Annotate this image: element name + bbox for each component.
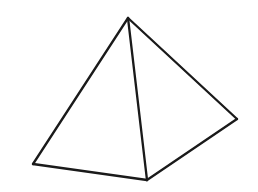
pyramid-figure: Pyramid wireframe line drawing — [0, 0, 258, 192]
drawing-canvas: Pyramid wireframe line drawing — [0, 0, 258, 192]
